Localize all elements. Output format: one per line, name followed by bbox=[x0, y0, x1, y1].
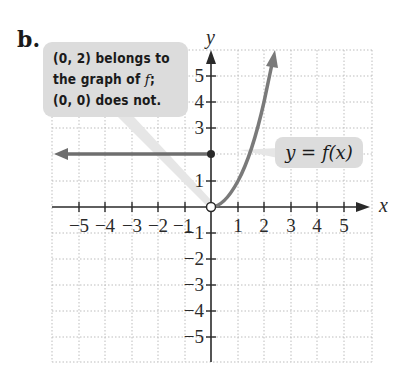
svg-text:−4: −4 bbox=[95, 215, 116, 236]
fx-label-pointer bbox=[240, 148, 278, 158]
x-axis-label: x bbox=[378, 194, 388, 216]
svg-text:1: 1 bbox=[233, 215, 243, 236]
callout-line-2-suffix: ; bbox=[150, 71, 155, 87]
svg-text:3: 3 bbox=[286, 215, 296, 236]
left-arrow-head bbox=[54, 148, 68, 160]
svg-text:−2: −2 bbox=[148, 215, 168, 236]
closed-dot bbox=[207, 150, 215, 158]
svg-text:−3: −3 bbox=[184, 274, 204, 295]
callout-line-1: (0, 2) belongs to bbox=[53, 48, 188, 69]
svg-text:−5: −5 bbox=[69, 215, 89, 236]
x-axis-arrow bbox=[356, 202, 370, 212]
function-label: y = f(x) bbox=[275, 137, 363, 168]
svg-text:1: 1 bbox=[195, 170, 205, 191]
svg-text:4: 4 bbox=[195, 91, 205, 112]
quadratic-piece bbox=[211, 64, 272, 207]
right-arrow-head bbox=[266, 50, 278, 68]
callout-line-2: the graph of f; bbox=[53, 69, 188, 90]
svg-text:−2: −2 bbox=[184, 248, 204, 269]
svg-text:2: 2 bbox=[259, 215, 269, 236]
svg-text:−5: −5 bbox=[184, 326, 204, 347]
y-axis-arrow bbox=[206, 50, 216, 64]
open-dot bbox=[207, 203, 216, 212]
svg-text:5: 5 bbox=[195, 65, 205, 86]
svg-text:−1: −1 bbox=[184, 222, 204, 243]
svg-text:−4: −4 bbox=[184, 300, 205, 321]
svg-text:5: 5 bbox=[339, 215, 349, 236]
svg-text:3: 3 bbox=[195, 117, 205, 138]
annotation-callout: (0, 2) belongs to the graph of f; (0, 0)… bbox=[43, 42, 188, 117]
y-axis-label: y bbox=[204, 26, 215, 49]
svg-text:4: 4 bbox=[312, 215, 322, 236]
svg-text:−3: −3 bbox=[122, 215, 142, 236]
callout-line-3: (0, 0) does not. bbox=[53, 90, 188, 111]
callout-line-2-text: the graph of bbox=[53, 71, 145, 87]
